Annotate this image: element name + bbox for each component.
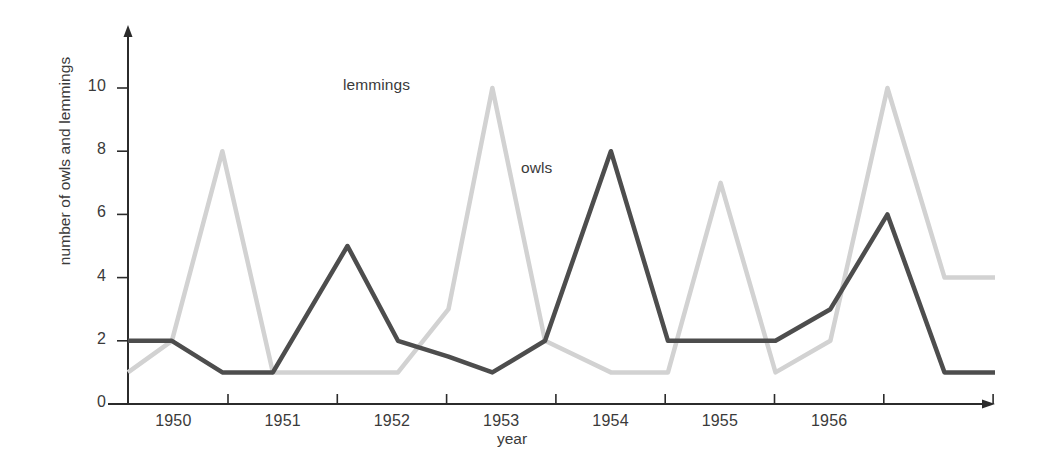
x-tick-label: 1956 (789, 412, 869, 430)
y-tick-label: 4 (80, 267, 106, 285)
x-tick-label: 1952 (352, 412, 432, 430)
y-axis-title: number of owls and lemmings (56, 36, 74, 286)
y-axis-tick-marks (117, 88, 128, 404)
series-label-lemmings: lemmings (343, 76, 410, 94)
chart-figure: number of owls and lemmings year 0246810… (0, 0, 1039, 473)
y-tick-label: 2 (80, 330, 106, 348)
series-label-owls: owls (521, 159, 552, 177)
x-tick-label: 1951 (243, 412, 323, 430)
series-line-lemmings (128, 88, 995, 372)
line-chart-canvas (0, 0, 1039, 473)
x-axis (108, 400, 995, 409)
y-tick-label: 6 (80, 203, 106, 221)
y-axis-arrow-icon (124, 25, 133, 37)
x-tick-label: 1950 (133, 412, 213, 430)
x-tick-label: 1955 (680, 412, 760, 430)
x-tick-label: 1954 (571, 412, 651, 430)
y-tick-label: 8 (80, 140, 106, 158)
x-tick-label: 1953 (461, 412, 541, 430)
x-axis-tick-marks (228, 394, 993, 404)
y-tick-label: 0 (80, 393, 106, 411)
x-axis-title: year (497, 430, 527, 448)
y-tick-label: 10 (80, 77, 106, 95)
